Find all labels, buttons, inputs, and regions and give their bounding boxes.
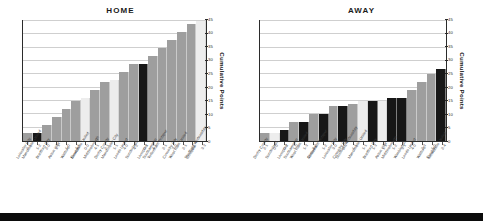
- bar: [187, 24, 197, 141]
- x-category: 1-3West Ham United: [299, 143, 309, 201]
- y-tick-mark: [205, 114, 208, 115]
- y-tick-mark: [205, 60, 208, 61]
- bar: [378, 101, 388, 141]
- y-tick-label: 25: [448, 72, 453, 76]
- bar: [52, 117, 62, 141]
- y-tick-mark: [445, 19, 448, 20]
- y-tick-label: 35: [208, 45, 213, 49]
- bar: [129, 64, 139, 141]
- x-category: 4-0Leeds United: [407, 143, 417, 201]
- y-tick-label: 35: [448, 45, 453, 49]
- y-tick-label: 30: [208, 59, 213, 63]
- chart-page: HOME Cumulative Points 05101520253035404…: [0, 0, 483, 221]
- bar: [387, 98, 397, 141]
- y-tick-mark: [205, 33, 208, 34]
- bar: [167, 40, 177, 141]
- y-tick-label: 10: [448, 113, 453, 117]
- y-tick-label: 40: [208, 31, 213, 35]
- y-tick-label: 0: [448, 140, 450, 144]
- match-score-label: 2-4: [440, 144, 446, 151]
- y-tick-mark: [205, 46, 208, 47]
- y-tick-label: 5: [448, 126, 450, 130]
- y-tick-label: 40: [448, 31, 453, 35]
- match-score-label: 3-3: [201, 144, 207, 151]
- x-category: 4-2Sunderland: [129, 143, 139, 201]
- x-axis-away: 2-1Derby County0-0Sunderland0-2Liverpool…: [259, 143, 447, 201]
- y-tick-label: 20: [448, 86, 453, 90]
- y-tick-mark: [445, 33, 448, 34]
- footer-bar: [0, 213, 483, 221]
- bar: [90, 90, 100, 141]
- bar: [119, 72, 129, 141]
- bar: [196, 21, 206, 141]
- bar: [158, 48, 168, 141]
- plot-area-home: [22, 20, 207, 142]
- x-category: 1-0Watford: [61, 143, 71, 201]
- bar: [397, 98, 407, 141]
- bar: [139, 64, 149, 141]
- y-axis-away: Cumulative Points 051015202530354045: [447, 20, 473, 142]
- y-tick-mark: [205, 73, 208, 74]
- y-axis-home: Cumulative Points 051015202530354045: [207, 20, 233, 142]
- y-tick-mark: [205, 19, 208, 20]
- y-tick-mark: [445, 100, 448, 101]
- y-tick-label: 0: [208, 140, 210, 144]
- y-tick-label: 20: [208, 86, 213, 90]
- x-axis-home: 2-1Leicester City1-2Manchester United2-0…: [22, 143, 207, 201]
- y-tick-mark: [205, 87, 208, 88]
- x-category: 2-4Newcastle United: [437, 143, 447, 201]
- bar: [427, 74, 437, 141]
- y-tick-label: 45: [448, 18, 453, 22]
- bar: [177, 32, 187, 141]
- y-tick-label: 5: [208, 126, 210, 130]
- bar: [368, 101, 378, 141]
- y-tick-mark: [445, 73, 448, 74]
- chart-title-home: HOME: [0, 6, 241, 15]
- y-tick-label: 15: [448, 99, 453, 103]
- x-category: 3-1Aston Villa: [51, 143, 61, 201]
- y-axis-label-away: Cumulative Points: [459, 52, 466, 109]
- chart-panel-away: AWAY Cumulative Points 05101520253035404…: [241, 0, 482, 200]
- y-tick-label: 15: [208, 99, 213, 103]
- chart-title-away: AWAY: [241, 6, 482, 15]
- y-tick-mark: [205, 141, 208, 142]
- x-category: 2-3Watford: [417, 143, 427, 201]
- y-tick-mark: [445, 127, 448, 128]
- y-tick-mark: [445, 87, 448, 88]
- y-axis-label-home: Cumulative Points: [219, 52, 226, 109]
- y-tick-mark: [445, 141, 448, 142]
- plot-area-away: [259, 20, 447, 142]
- bar: [148, 56, 158, 141]
- y-tick-mark: [205, 100, 208, 101]
- y-tick-label: 45: [208, 18, 213, 22]
- x-category: 3-3Sheffield Wednesday: [197, 143, 207, 201]
- bar: [100, 82, 110, 141]
- bar: [280, 130, 290, 141]
- bar: [436, 69, 446, 141]
- bar: [417, 82, 427, 141]
- y-tick-label: 10: [208, 113, 213, 117]
- bar: [407, 90, 417, 141]
- y-tick-mark: [445, 114, 448, 115]
- y-tick-mark: [445, 60, 448, 61]
- bar-series-away: [260, 21, 446, 141]
- y-tick-label: 25: [208, 72, 213, 76]
- x-category: 0-0Sunderland: [269, 143, 279, 201]
- bar: [62, 109, 72, 141]
- bar: [71, 101, 81, 141]
- y-tick-mark: [445, 46, 448, 47]
- y-tick-label: 30: [448, 59, 453, 63]
- chart-panel-home: HOME Cumulative Points 05101520253035404…: [0, 0, 241, 200]
- opponent-label: Watford: [59, 145, 71, 159]
- bar-series-home: [23, 21, 206, 141]
